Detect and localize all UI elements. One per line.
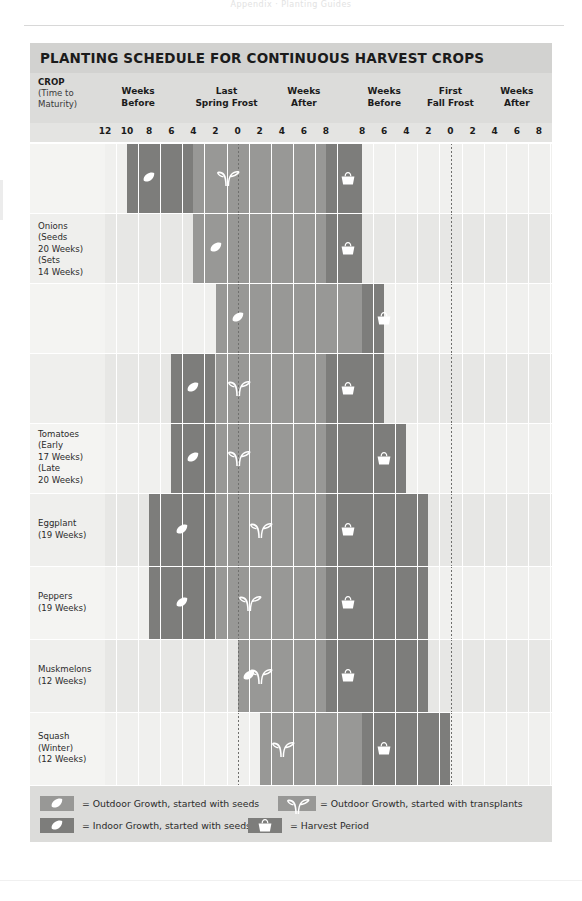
column-divider-14 bbox=[439, 213, 440, 283]
column-divider-15 bbox=[462, 143, 463, 213]
column-divider-9 bbox=[315, 423, 316, 493]
crop-row-tomatoes-late: Tomatoes(Early17 Weeks)(Late20 Weeks) bbox=[30, 423, 552, 493]
column-divider-7 bbox=[271, 566, 272, 639]
column-divider-12 bbox=[395, 639, 396, 712]
column-divider-19 bbox=[550, 353, 551, 423]
column-divider-4 bbox=[204, 143, 205, 213]
chart-title-bar: PLANTING SCHEDULE FOR CONTINUOUS HARVEST… bbox=[30, 43, 552, 73]
column-divider-5 bbox=[227, 493, 228, 566]
basket-icon bbox=[340, 595, 356, 614]
column-divider-14 bbox=[439, 639, 440, 712]
column-divider-18 bbox=[528, 213, 529, 283]
column-divider-2 bbox=[160, 353, 161, 423]
column-divider-5 bbox=[227, 639, 228, 712]
crop-label-line: Squash bbox=[38, 731, 102, 742]
header-group-weeks-before-fall: WeeksBefore bbox=[351, 86, 417, 109]
column-divider-1 bbox=[138, 423, 139, 493]
column-divider-17 bbox=[506, 493, 507, 566]
column-divider-15 bbox=[462, 639, 463, 712]
legend-text-indoor-seeds: = Indoor Growth, started with seeds bbox=[82, 820, 251, 831]
basket-icon bbox=[376, 451, 392, 470]
crop-header-line1: CROP bbox=[38, 77, 100, 88]
column-divider-16 bbox=[484, 493, 485, 566]
crop-label-line: Tomatoes bbox=[38, 429, 102, 440]
column-divider-9 bbox=[315, 213, 316, 283]
column-divider-3 bbox=[182, 639, 183, 712]
column-divider-17 bbox=[506, 353, 507, 423]
first-fall-frost-line bbox=[451, 143, 452, 213]
crop-label-line: 20 Weeks) bbox=[38, 244, 102, 255]
column-divider-8 bbox=[293, 493, 294, 566]
column-divider-4 bbox=[204, 712, 205, 785]
crop-label-line: Muskmelons bbox=[38, 664, 102, 675]
column-divider-19 bbox=[550, 213, 551, 283]
column-divider-5 bbox=[227, 712, 228, 785]
first-fall-frost-line bbox=[451, 639, 452, 712]
row-label-background bbox=[30, 283, 105, 353]
column-divider-10 bbox=[337, 353, 338, 423]
sprout-icon bbox=[210, 169, 244, 191]
first-fall-frost-line bbox=[451, 712, 452, 785]
page-title: PLANTING SCHEDULE FOR CONTINUOUS HARVEST… bbox=[40, 50, 542, 66]
column-divider-8 bbox=[293, 353, 294, 423]
column-divider-16 bbox=[484, 143, 485, 213]
column-divider-0 bbox=[116, 639, 117, 712]
column-divider-12 bbox=[395, 566, 396, 639]
column-divider-3 bbox=[182, 283, 183, 353]
column-divider-0 bbox=[116, 566, 117, 639]
sprout-icon bbox=[221, 379, 255, 401]
crop-label-muskmelons: Muskmelons(12 Weeks) bbox=[38, 664, 102, 687]
column-divider-2 bbox=[160, 639, 161, 712]
legend-text-outdoor-transplants: = Outdoor Growth, started with transplan… bbox=[320, 798, 523, 809]
column-divider-11 bbox=[373, 423, 374, 493]
column-divider-12 bbox=[395, 493, 396, 566]
column-divider-9 bbox=[315, 283, 316, 353]
header-group-weeks-after-spring: WeeksAfter bbox=[271, 86, 337, 109]
seed-icon bbox=[185, 450, 201, 470]
column-divider-0 bbox=[116, 493, 117, 566]
row-separator bbox=[30, 639, 552, 640]
column-divider-11 bbox=[373, 143, 374, 213]
week-tick-6: 0 bbox=[231, 126, 245, 136]
first-fall-frost-line bbox=[451, 423, 452, 493]
seed-icon bbox=[208, 240, 224, 260]
column-divider-1 bbox=[138, 639, 139, 712]
week-tick-2: 8 bbox=[142, 126, 156, 136]
column-divider-3 bbox=[182, 353, 183, 423]
basket-icon bbox=[340, 522, 356, 541]
week-tick-3: 6 bbox=[164, 126, 178, 136]
column-divider-6 bbox=[249, 213, 250, 283]
column-divider-3 bbox=[182, 712, 183, 785]
column-divider-4 bbox=[204, 566, 205, 639]
week-tick-1: 10 bbox=[120, 126, 134, 136]
column-divider-2 bbox=[160, 566, 161, 639]
column-divider-9 bbox=[315, 639, 316, 712]
column-divider-8 bbox=[293, 143, 294, 213]
column-divider-3 bbox=[182, 213, 183, 283]
column-divider-6 bbox=[249, 712, 250, 785]
column-divider-16 bbox=[484, 712, 485, 785]
column-divider-10 bbox=[337, 213, 338, 283]
crop-header-line3: Maturity) bbox=[38, 99, 100, 110]
column-divider-0 bbox=[116, 213, 117, 283]
column-divider-8 bbox=[293, 423, 294, 493]
column-divider-15 bbox=[462, 493, 463, 566]
column-divider-9 bbox=[315, 566, 316, 639]
week-tick-18: 6 bbox=[510, 126, 524, 136]
column-divider-3 bbox=[182, 423, 183, 493]
column-divider-17 bbox=[506, 283, 507, 353]
column-divider-15 bbox=[462, 712, 463, 785]
column-divider-6 bbox=[249, 283, 250, 353]
row-separator bbox=[30, 213, 552, 214]
crop-label-line: (Seeds bbox=[38, 232, 102, 243]
last-spring-frost-line bbox=[238, 493, 239, 566]
legend-swatch-outdoor-seeds bbox=[40, 796, 74, 811]
crop-row-squash-winter: Squash(Winter)(12 Weeks) bbox=[30, 712, 552, 785]
crop-label-onions-sets: Onions(Seeds20 Weeks)(Sets14 Weeks) bbox=[38, 221, 102, 278]
sprout-icon bbox=[243, 521, 277, 543]
column-divider-16 bbox=[484, 566, 485, 639]
crop-label-line: 20 Weeks) bbox=[38, 475, 102, 486]
column-divider-16 bbox=[484, 353, 485, 423]
header-group-line2: Fall Frost bbox=[417, 98, 483, 110]
column-divider-14 bbox=[439, 493, 440, 566]
